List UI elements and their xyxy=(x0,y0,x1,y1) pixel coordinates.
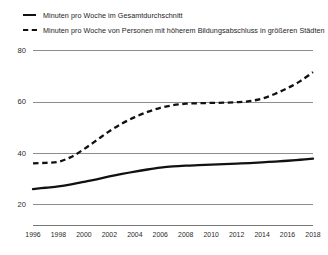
x-axis-tick-label: 2010 xyxy=(204,231,219,238)
y-axis-tick-label: 80 xyxy=(18,46,26,55)
x-axis-tick-label: 2014 xyxy=(254,231,269,238)
x-axis-tick-label: 1996 xyxy=(25,231,40,238)
x-axis-tick-label: 2016 xyxy=(280,231,295,238)
x-axis-tick-label: 2018 xyxy=(305,231,320,238)
x-axis-tick-label: 2008 xyxy=(178,231,193,238)
y-axis-tick-label: 20 xyxy=(18,200,26,209)
chart-svg: 20406080 1996199820002002200420062008201… xyxy=(0,0,328,255)
series-line-hoeherer-bildungsabschluss xyxy=(33,72,313,163)
x-axis-tick-labels: 1996199820002002200420062008201020122014… xyxy=(25,231,320,238)
gridlines-group xyxy=(33,51,313,205)
series-line-gesamtdurchschnitt xyxy=(33,159,313,189)
y-axis-tick-labels: 20406080 xyxy=(18,46,26,209)
x-axis-tick-label: 2006 xyxy=(153,231,168,238)
chart-container: Minuten pro Woche im Gesamtdurchschnitt … xyxy=(0,0,328,255)
x-axis-tick-label: 2000 xyxy=(76,231,91,238)
y-axis-tick-label: 40 xyxy=(18,149,26,158)
x-axis-tick-label: 2012 xyxy=(229,231,244,238)
y-axis-tick-label: 60 xyxy=(18,97,26,106)
plot-area: 20406080 1996199820002002200420062008201… xyxy=(0,0,328,255)
x-axis-tick-label: 1998 xyxy=(51,231,66,238)
x-axis-tick-label: 2002 xyxy=(102,231,117,238)
x-axis-tick-label: 2004 xyxy=(127,231,142,238)
